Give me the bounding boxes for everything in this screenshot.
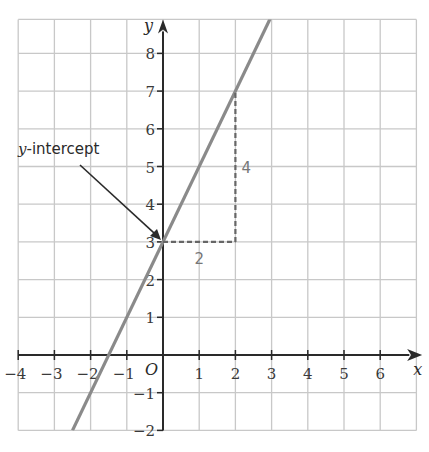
x-tick-label: −1: [113, 365, 135, 383]
chart-canvas: −4−3−2−1123456−2−112345678xyO 24y-interc…: [0, 0, 429, 452]
run-label: 2: [194, 250, 204, 268]
y-tick-label: 1: [145, 309, 155, 327]
x-tick-label: 6: [375, 365, 385, 383]
plot-line: [73, 16, 272, 431]
y-tick-label: −1: [133, 385, 155, 403]
y-tick-label: 7: [145, 83, 155, 101]
y-tick-label: 8: [145, 45, 155, 63]
y-tick-label: 5: [145, 159, 155, 177]
rise-label: 4: [241, 159, 251, 177]
x-tick-label: 3: [267, 365, 277, 383]
y-tick-label: −2: [133, 422, 155, 440]
y-tick-label: 4: [145, 196, 155, 214]
y-intercept-label: y-intercept: [17, 140, 100, 158]
x-tick-label: 2: [231, 365, 241, 383]
x-tick-label: 4: [303, 365, 313, 383]
tick-labels: −4−3−2−1123456−2−112345678xyO: [4, 16, 422, 440]
x-tick-label: 5: [339, 365, 349, 383]
x-tick-label: 1: [194, 365, 204, 383]
x-tick-label: −4: [4, 365, 26, 383]
y-tick-label: 6: [145, 121, 155, 139]
x-tick-label: −3: [40, 365, 62, 383]
y-axis-label: y: [143, 16, 154, 35]
origin-label: O: [145, 360, 158, 379]
x-axis-label: x: [413, 360, 422, 379]
series-line: [73, 16, 272, 431]
